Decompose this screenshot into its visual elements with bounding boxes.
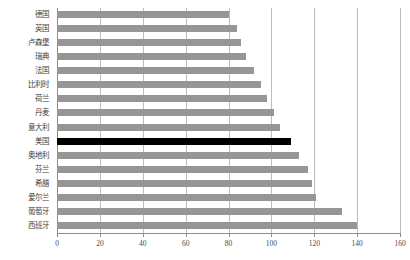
tick-100 [271,233,272,237]
category-axis-labels: 德国英国卢森堡瑞典法国比利时荷兰丹麦意大利美国奥地利芬兰希腊爱尔兰葡萄牙西班牙 [0,8,53,233]
bar-row [57,149,400,162]
bar-row [57,50,400,63]
category-label-德国: 德国 [0,10,53,19]
tick-label-60: 60 [182,239,190,248]
tick-label-140: 140 [352,239,363,248]
bar-row [57,191,400,204]
tick-label-0: 0 [55,239,59,248]
tick-label-20: 20 [96,239,104,248]
bar-德国 [57,11,229,18]
category-label-丹麦: 丹麦 [0,108,53,117]
bar-row [57,219,400,232]
bar-row [57,121,400,134]
category-label-奥地利: 奥地利 [0,151,53,160]
bar-row [57,177,400,190]
tick-label-80: 80 [225,239,233,248]
bar-法国 [57,67,254,74]
tick-0 [57,233,58,237]
tick-80 [229,233,230,237]
tick-label-120: 120 [309,239,320,248]
tick-120 [314,233,315,237]
gridline-160 [400,8,401,234]
tick-20 [100,233,101,237]
bar-葡萄牙 [57,208,342,215]
tick-40 [143,233,144,237]
category-label-意大利: 意大利 [0,123,53,132]
bar-荷兰 [57,95,267,102]
bar-row [57,8,400,21]
bar-row [57,92,400,105]
bar-爱尔兰 [57,194,316,201]
bar-希腊 [57,180,312,187]
bar-row [57,135,400,148]
category-label-爱尔兰: 爱尔兰 [0,193,53,202]
category-label-美国: 美国 [0,137,53,146]
tick-160 [400,233,401,237]
bar-row [57,36,400,49]
bar-奥地利 [57,152,299,159]
bar-瑞典 [57,53,246,60]
category-label-法国: 法国 [0,66,53,75]
bar-比利时 [57,81,261,88]
chart-container: 部分国家人均国内生产总值比较（指数） 德国英国卢森堡瑞典法国比利时荷兰丹麦意大利… [0,0,410,260]
bar-row [57,163,400,176]
bar-row [57,22,400,35]
category-label-瑞典: 瑞典 [0,52,53,61]
category-label-比利时: 比利时 [0,80,53,89]
bar-row [57,64,400,77]
bar-芬兰 [57,166,308,173]
tick-label-160: 160 [394,239,405,248]
tick-label-100: 100 [266,239,277,248]
category-label-希腊: 希腊 [0,179,53,188]
category-label-芬兰: 芬兰 [0,165,53,174]
category-label-英国: 英国 [0,24,53,33]
category-label-荷兰: 荷兰 [0,94,53,103]
bar-意大利 [57,124,280,131]
tick-60 [186,233,187,237]
plot-area [57,8,400,233]
category-label-西班牙: 西班牙 [0,221,53,230]
bar-row [57,205,400,218]
tick-label-40: 40 [139,239,147,248]
category-label-葡萄牙: 葡萄牙 [0,207,53,216]
bar-卢森堡 [57,39,241,46]
bar-美国 [57,138,291,146]
tick-140 [357,233,358,237]
bar-row [57,78,400,91]
category-label-卢森堡: 卢森堡 [0,38,53,47]
bar-英国 [57,25,237,32]
bar-row [57,106,400,119]
bar-丹麦 [57,109,274,116]
bar-西班牙 [57,222,357,229]
